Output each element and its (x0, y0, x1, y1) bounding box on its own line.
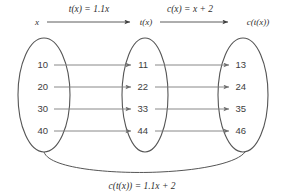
function-composition-diagram: x t(x) = 1.1x t(x) c(x) = x + 2 c(t(x)) … (0, 0, 284, 195)
intermediate-value-3: 33 (137, 103, 148, 114)
flow-middle-label: t(x) (140, 17, 153, 27)
intermediate-value-1: 11 (138, 59, 148, 70)
diagram-canvas: x t(x) = 1.1x t(x) c(x) = x + 2 c(t(x)) … (0, 0, 284, 195)
output-value-2: 24 (235, 81, 246, 92)
composite-function-label: c(t(x)) = 1.1x + 2 (109, 181, 176, 192)
flow-end-label: c(t(x)) (247, 17, 269, 27)
flow-arrow-1-label: t(x) = 1.1x (69, 4, 110, 15)
composite-curve (44, 152, 245, 172)
output-value-4: 46 (235, 125, 246, 136)
flow-arrow-2-label: c(x) = x + 2 (167, 4, 213, 15)
intermediate-value-2: 22 (137, 81, 148, 92)
flow-start-label: x (34, 17, 39, 27)
input-value-2: 20 (37, 81, 48, 92)
input-value-4: 40 (37, 125, 48, 136)
intermediate-value-4: 44 (137, 125, 148, 136)
input-value-1: 10 (37, 59, 48, 70)
output-value-3: 35 (235, 103, 246, 114)
output-value-1: 13 (235, 59, 246, 70)
input-value-3: 30 (37, 103, 48, 114)
